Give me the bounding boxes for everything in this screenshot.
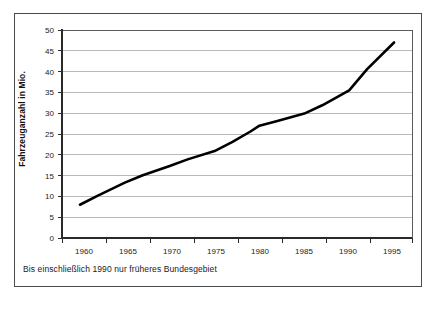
chart-container: 50 45 40 35 30 25 20 15 10 5 0 1960 1965…	[0, 0, 441, 309]
y-tick-label-30: 30	[28, 109, 54, 118]
x-tick-label-1990: 1990	[328, 247, 368, 256]
chart-plot-svg	[0, 0, 441, 309]
y-axis-title-wrap: Fahrzeuganzahl in Mio.	[15, 64, 29, 174]
y-tick-label-15: 15	[28, 172, 54, 181]
y-tick-label-25: 25	[28, 130, 54, 139]
x-tick-label-1970: 1970	[152, 247, 192, 256]
x-tick-label-1995: 1995	[372, 247, 412, 256]
y-tick-label-35: 35	[28, 88, 54, 97]
x-tick-label-1980: 1980	[240, 247, 280, 256]
x-axis-ticks-group	[62, 238, 412, 243]
y-tick-label-50: 50	[28, 26, 54, 35]
y-tick-label-0: 0	[28, 234, 54, 243]
y-tick-label-40: 40	[28, 68, 54, 77]
y-tick-label-45: 45	[28, 47, 54, 56]
chart-footnote: Bis einschließlich 1990 nur früheres Bun…	[23, 264, 217, 275]
x-tick-label-1985: 1985	[284, 247, 324, 256]
x-tick-label-1960: 1960	[64, 247, 104, 256]
y-tick-label-10: 10	[28, 192, 54, 201]
y-axis-title: Fahrzeuganzahl in Mio.	[15, 64, 29, 174]
y-tick-label-5: 5	[28, 213, 54, 222]
x-tick-label-1975: 1975	[196, 247, 236, 256]
y-tick-label-20: 20	[28, 151, 54, 160]
x-tick-label-1965: 1965	[108, 247, 148, 256]
